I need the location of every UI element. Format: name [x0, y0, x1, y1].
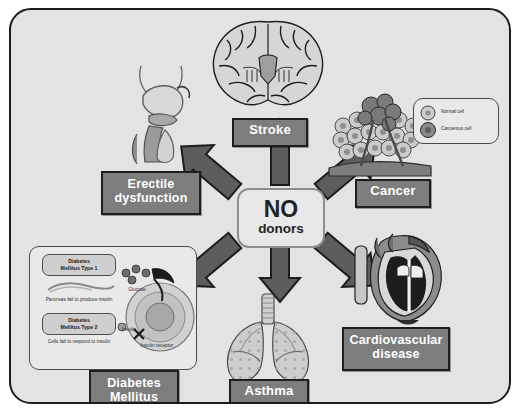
type1-caption: Pancreas fail to produce insulin — [40, 297, 118, 303]
label-stroke: Stroke — [232, 118, 308, 147]
diabetes-inset-panel: Diabetes Mellitus Type 1 Pancreas fail t… — [29, 246, 197, 370]
label-erectile-dysfunction: Erectile dysfunction — [101, 171, 201, 215]
label-erectile-l1: Erectile — [128, 177, 175, 191]
no-donors-hub: NO donors — [237, 188, 325, 248]
type2-l2: Mellitus Type 2 — [61, 324, 98, 330]
label-cardiovascular-l2: disease — [372, 347, 419, 361]
label-erectile-l2: dysfunction — [114, 191, 187, 205]
legend-cancerous-cell: Cancerous cell — [441, 126, 471, 131]
type2-l1: Diabetes — [68, 317, 90, 323]
cancer-legend-box: Normal cell Cancerous cell — [413, 98, 499, 144]
diabetes-type1-box: Diabetes Mellitus Type 1 — [42, 254, 116, 276]
label-cardiovascular-l1: Cardiovascular — [349, 333, 442, 347]
label-cardiovascular-disease: Cardiovascular disease — [342, 327, 450, 371]
insulin-receptor-label: Insulin receptor — [138, 343, 176, 349]
label-stroke-text: Stroke — [249, 122, 291, 137]
label-diabetes-l1: Diabetes — [107, 376, 161, 390]
legend-normal-cell: Normal cell — [441, 109, 464, 114]
hub-title: NO — [264, 198, 299, 221]
label-diabetes-mellitus: Diabetes Mellitus — [89, 370, 179, 404]
label-asthma: Asthma — [229, 379, 309, 404]
label-cancer: Cancer — [355, 179, 431, 208]
heart-cross-section-icon — [351, 232, 461, 328]
type1-l2: Mellitus Type 1 — [61, 265, 98, 271]
hub-subtitle: donors — [258, 221, 304, 237]
label-cancer-text: Cancer — [370, 183, 415, 198]
diagram-panel: NO donors — [9, 8, 511, 404]
lungs-icon — [209, 292, 327, 384]
pancreas-icon — [44, 278, 118, 296]
type2-caption: Cells fail to respond to insulin — [38, 339, 120, 345]
type1-l1: Diabetes — [68, 258, 90, 264]
male-reproductive-tract-icon — [115, 62, 207, 166]
label-diabetes-l2: Mellitus — [110, 390, 158, 404]
glucose-label: Glucose — [122, 287, 152, 293]
label-asthma-text: Asthma — [245, 383, 294, 398]
insulin-label: Insulin — [118, 327, 140, 333]
diabetes-type2-box: Diabetes Mellitus Type 2 — [42, 313, 116, 335]
brain-coronal-section-icon — [207, 18, 329, 110]
